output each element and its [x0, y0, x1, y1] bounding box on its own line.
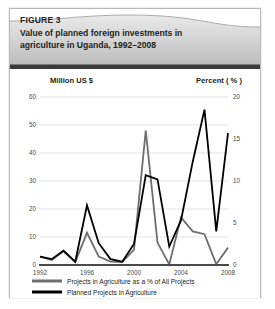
right-tick-label: 20: [233, 93, 241, 100]
figure-title-line-1: Value of planned foreign investments in: [20, 28, 182, 38]
left-tick-label: 20: [29, 205, 37, 212]
right-tick-label: 5: [233, 219, 237, 226]
right-tick-label: 15: [233, 135, 241, 142]
figure-header: FIGURE 3 Value of planned foreign invest…: [10, 9, 260, 64]
legend-svg: Projects in Agriculture as a % of All Pr…: [10, 274, 260, 300]
figure-header-text: FIGURE 3 Value of planned foreign invest…: [20, 15, 254, 51]
left-tick-label: 40: [29, 149, 37, 156]
legend-label: Projects in Agriculture as a % of All Pr…: [67, 278, 195, 286]
figure-card: FIGURE 3 Value of planned foreign invest…: [9, 8, 261, 298]
left-axis-tick-labels: 0102030405060: [29, 93, 37, 268]
right-axis-tick-labels: 05101520: [233, 93, 241, 268]
left-tick-label: 60: [29, 93, 37, 100]
grid-lines: [40, 97, 228, 237]
figure-label: FIGURE 3: [20, 15, 254, 25]
series-line: [40, 110, 228, 262]
right-tick-label: 0: [233, 261, 237, 268]
legend-label: Planned Projects in Agriculture: [67, 289, 157, 297]
chart-area: 0102030405060 05101520 19921996200020042…: [10, 69, 260, 298]
figure-title-line-2: agriculture in Uganda, 1992–2008: [20, 40, 156, 50]
left-axis-title: Million US $: [50, 76, 94, 85]
line-chart: 0102030405060 05101520 19921996200020042…: [10, 69, 260, 298]
left-tick-label: 30: [29, 177, 37, 184]
right-axis-title: Percent ( % ): [196, 76, 242, 85]
left-tick-label: 0: [32, 261, 36, 268]
figure-title: Value of planned foreign investments in …: [20, 28, 254, 51]
left-tick-label: 50: [29, 121, 37, 128]
left-tick-label: 10: [29, 233, 37, 240]
data-series: [40, 110, 228, 265]
right-tick-label: 10: [233, 177, 241, 184]
